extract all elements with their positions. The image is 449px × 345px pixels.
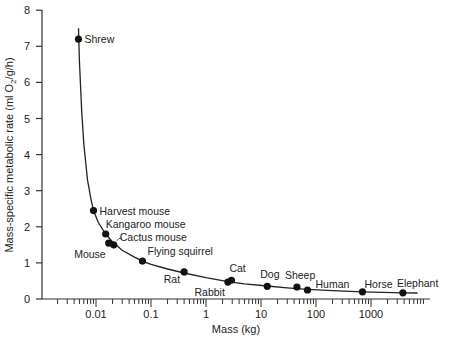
x-tick-label: 0.01 <box>85 308 106 320</box>
y-tick-label: 6 <box>24 76 30 88</box>
y-ticks: 012345678 <box>24 4 42 305</box>
y-tick-label: 0 <box>24 293 30 305</box>
y-tick-label: 8 <box>24 4 30 16</box>
data-point <box>304 286 311 293</box>
point-label: Rat <box>164 273 180 285</box>
point-label: Mouse <box>74 248 106 260</box>
point-label: Sheep <box>285 269 316 281</box>
point-label: Shrew <box>84 33 114 45</box>
x-tick-label: 1 <box>203 308 209 320</box>
data-points: ShrewHarvest mouseKangaroo mouseMouseCac… <box>74 33 438 298</box>
point-label: Flying squirrel <box>147 245 212 257</box>
x-tick-label: 10 <box>255 308 267 320</box>
point-label: Kangaroo mouse <box>106 218 186 230</box>
data-point <box>264 283 271 290</box>
x-axis-label: Mass (kg) <box>212 323 260 335</box>
point-label: Cactus mouse <box>120 231 187 243</box>
point-label: Dog <box>260 268 279 280</box>
data-point <box>90 207 97 214</box>
data-point <box>75 35 82 42</box>
fit-curve <box>79 28 418 293</box>
x-tick-label: 100 <box>307 308 325 320</box>
x-tick-label: 0.1 <box>143 308 158 320</box>
x-ticks: 0.010.11101001000 <box>58 299 424 320</box>
point-label: Cat <box>229 262 245 274</box>
y-tick-label: 1 <box>24 257 30 269</box>
data-point <box>181 268 188 275</box>
point-label: Harvest mouse <box>99 205 170 217</box>
x-tick-label: 1000 <box>359 308 383 320</box>
point-label: Horse <box>364 278 392 290</box>
y-tick-label: 3 <box>24 185 30 197</box>
y-tick-label: 7 <box>24 40 30 52</box>
data-point <box>399 289 406 296</box>
y-tick-label: 5 <box>24 113 30 125</box>
data-point <box>110 241 117 248</box>
point-label: Rabbit <box>195 286 225 298</box>
data-point <box>228 277 235 284</box>
point-label: Human <box>315 278 349 290</box>
data-point <box>293 283 300 290</box>
data-point <box>102 230 109 237</box>
y-axis-label: Mass-specific metabolic rate (ml O2/g/h) <box>3 57 18 252</box>
point-label: Elephant <box>397 277 439 289</box>
data-point <box>139 257 146 264</box>
y-tick-label: 4 <box>24 149 30 161</box>
metabolic-rate-chart: 012345678 0.010.11101001000 ShrewHarvest… <box>0 0 449 345</box>
y-tick-label: 2 <box>24 221 30 233</box>
